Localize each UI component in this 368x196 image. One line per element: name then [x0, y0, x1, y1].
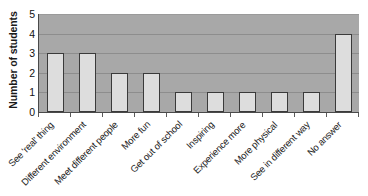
bar [111, 73, 128, 112]
y-axis-tick-label: 3 [22, 48, 35, 58]
bar [335, 34, 352, 112]
y-axis-tick-label: 5 [22, 9, 35, 19]
bar [47, 53, 64, 112]
bar [143, 73, 160, 112]
bar [175, 92, 192, 112]
y-axis-tick-label: 0 [22, 107, 35, 117]
y-axis-tick-label: 4 [22, 29, 35, 39]
x-axis-category-labels: See 'real' thingDifferent environmentMee… [0, 117, 368, 196]
plot-area [38, 14, 359, 113]
bar-chart: Number of students 543210 See 'real' thi… [0, 0, 368, 196]
bar [303, 92, 320, 112]
bar [271, 92, 288, 112]
y-axis-tick-label: 2 [22, 68, 35, 78]
y-axis-tick-label: 1 [22, 87, 35, 97]
y-axis-title: Number of students [7, 8, 19, 112]
x-axis-category-label: See in different way [248, 119, 312, 183]
bar [239, 92, 256, 112]
x-axis-category-label: Meet different people [52, 119, 120, 187]
y-axis-tick-labels: 543210 [22, 14, 35, 112]
bar [207, 92, 224, 112]
bars-layer [39, 14, 359, 112]
bar [79, 53, 96, 112]
